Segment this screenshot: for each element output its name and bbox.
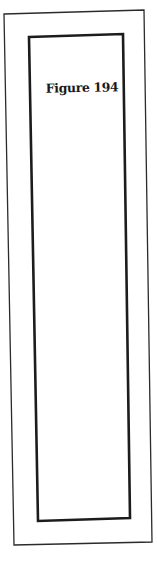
inner-border-frame [29, 34, 130, 521]
figure-caption: Figure 194 [38, 79, 126, 96]
scanned-figure-page: Figure 194 [0, 0, 157, 575]
